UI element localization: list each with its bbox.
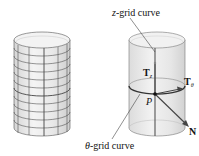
figure-canvas: z-grid curve θ-grid curve Tz Tθ P N bbox=[0, 0, 199, 156]
left-grid-cylinder bbox=[14, 32, 70, 136]
p-label: P bbox=[145, 96, 152, 107]
t-theta-label: Tθ bbox=[184, 76, 194, 88]
z-grid-curve-label: z-grid curve bbox=[111, 7, 161, 18]
n-label: N bbox=[189, 126, 197, 137]
theta-grid-curve-label: θ-grid curve bbox=[85, 140, 135, 151]
point-p bbox=[153, 92, 157, 96]
